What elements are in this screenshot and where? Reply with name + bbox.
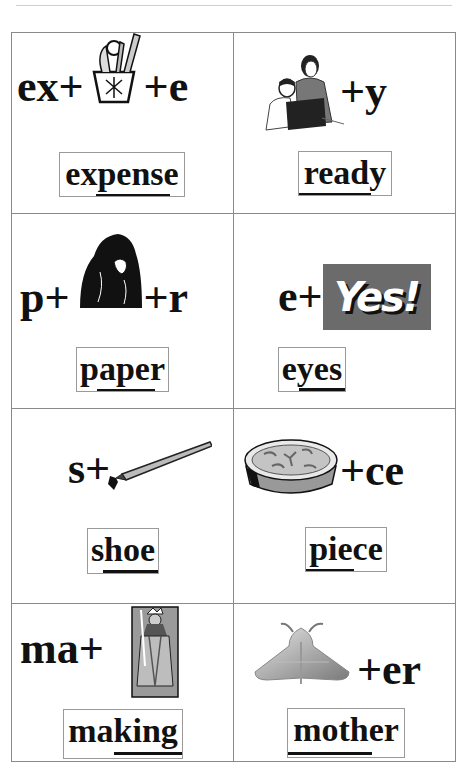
suffix: +er bbox=[357, 648, 421, 692]
answer-word: eyes bbox=[282, 348, 342, 386]
prefix: ma+ bbox=[20, 627, 104, 671]
answer-word-box: ready bbox=[298, 151, 392, 196]
answer-word-box: mother bbox=[287, 708, 405, 758]
answer-word-box: piece bbox=[305, 527, 387, 572]
grid-row-divider bbox=[11, 213, 456, 214]
prefix: p+ bbox=[20, 276, 70, 320]
prefix: e+ bbox=[278, 275, 323, 319]
vowel-underline bbox=[299, 193, 371, 196]
vowel-underline bbox=[299, 388, 346, 391]
pie-icon bbox=[242, 436, 340, 506]
answer-word: paper bbox=[80, 348, 165, 386]
pen-nib-icon bbox=[106, 440, 212, 498]
vowel-underline bbox=[96, 194, 170, 197]
people-reading-icon bbox=[262, 52, 346, 142]
word-equation: e+ Yes! bbox=[278, 264, 431, 330]
answer-word: expense bbox=[65, 153, 178, 191]
prefix: ex+ bbox=[17, 65, 84, 109]
gorilla-icon bbox=[78, 232, 144, 316]
word-equation: +y bbox=[262, 52, 387, 142]
yes-sign-text: Yes! bbox=[334, 277, 419, 317]
word-equation: ex+ +e bbox=[17, 62, 188, 112]
vowel-underline bbox=[97, 389, 155, 392]
answer-word-box: shoe bbox=[87, 528, 159, 574]
word-equation: p+ +r bbox=[20, 228, 188, 320]
answer-word: ready bbox=[304, 152, 386, 190]
header-rule bbox=[16, 5, 452, 6]
answer-word: making bbox=[68, 710, 178, 748]
prefix: s+ bbox=[68, 447, 110, 491]
suffix: +e bbox=[144, 65, 189, 109]
answer-word-box: making bbox=[63, 709, 183, 759]
king-card-icon bbox=[131, 606, 179, 702]
grid-row-divider bbox=[11, 408, 456, 409]
yes-sign-icon: Yes! bbox=[323, 264, 431, 330]
word-equation: s+ bbox=[68, 440, 212, 498]
grid-row-divider bbox=[11, 603, 456, 604]
answer-word-box: eyes bbox=[278, 347, 346, 392]
suffix: +r bbox=[144, 276, 189, 320]
answer-word-box: paper bbox=[76, 347, 169, 392]
word-equation: +er bbox=[253, 620, 421, 692]
vowel-underline bbox=[103, 570, 159, 573]
answer-word: shoe bbox=[91, 529, 155, 567]
answer-word-box: expense bbox=[59, 152, 185, 197]
moth-icon bbox=[253, 620, 351, 692]
suffix: +y bbox=[340, 70, 387, 114]
answer-word: mother bbox=[293, 709, 399, 747]
word-equation: ma+ bbox=[20, 627, 104, 671]
word-equation: +ce bbox=[242, 436, 404, 506]
vowel-underline bbox=[306, 569, 354, 572]
pencil-cup-icon bbox=[84, 62, 144, 112]
vowel-underline bbox=[288, 752, 372, 755]
answer-word: piece bbox=[309, 528, 383, 566]
suffix: +ce bbox=[340, 449, 404, 493]
grid-column-divider bbox=[233, 32, 234, 762]
vowel-underline bbox=[114, 752, 183, 755]
